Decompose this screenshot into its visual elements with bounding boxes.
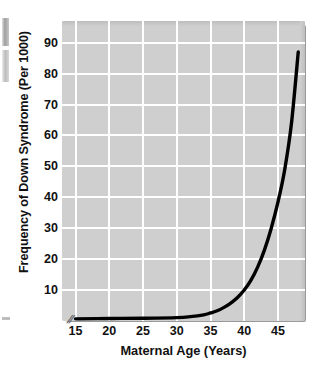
data-curve — [62, 21, 305, 321]
y-tick-label: 90 — [28, 37, 58, 49]
y-tick-label: 50 — [28, 160, 58, 172]
x-tick-label: 30 — [160, 324, 194, 338]
y-tick-label: 10 — [28, 284, 58, 296]
y-tick-label: 30 — [28, 222, 58, 234]
x-tick-label: 45 — [261, 324, 295, 338]
x-axis-title: Maternal Age (Years) — [62, 343, 305, 358]
scan-edge-artifact-middle — [2, 50, 9, 82]
scan-edge-artifact-top — [2, 18, 9, 46]
x-tick-label: 15 — [59, 324, 93, 338]
x-tick-label: 35 — [194, 324, 228, 338]
x-axis-tick-labels: 15202530354045 — [0, 324, 331, 340]
chart-figure: Frequency of Down Syndrome (Per 1000) 10… — [0, 0, 331, 370]
y-axis-tick-labels: 102030405060708090 — [26, 0, 58, 370]
y-tick-label: 20 — [28, 253, 58, 265]
x-tick-label: 25 — [126, 324, 160, 338]
y-tick-label: 40 — [28, 191, 58, 203]
y-tick-label: 80 — [28, 68, 58, 80]
y-tick-label: 70 — [28, 99, 58, 111]
scan-edge-artifact-dash — [2, 317, 10, 320]
x-tick-label: 20 — [92, 324, 126, 338]
y-tick-label: 60 — [28, 129, 58, 141]
x-tick-label: 40 — [227, 324, 261, 338]
